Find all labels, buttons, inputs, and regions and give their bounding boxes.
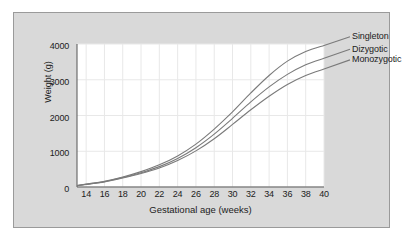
y-axis-ticks: 4000 3000 2000 1000 0 [34, 44, 73, 187]
x-tick-20: 20 [136, 189, 146, 199]
series-label-monozygotic: Monozygotic [352, 54, 401, 64]
x-tick-32: 32 [246, 189, 256, 199]
x-tick-34: 34 [264, 189, 274, 199]
y-axis-title: Weight (g) [43, 42, 53, 122]
x-axis-ticks: 1416182022242628303234363840 [77, 189, 324, 203]
curve-singleton [77, 37, 350, 186]
x-tick-36: 36 [283, 189, 293, 199]
y-tick-0: 0 [64, 178, 69, 196]
x-tick-24: 24 [173, 189, 183, 199]
x-tick-30: 30 [228, 189, 238, 199]
y-tick-1000: 1000 [50, 142, 69, 160]
x-tick-18: 18 [118, 189, 128, 199]
series-label-dizygotic: Dizygotic [352, 44, 388, 54]
x-tick-16: 16 [100, 189, 110, 199]
x-tick-40: 40 [319, 189, 329, 199]
plot-area [77, 44, 324, 187]
curve-monozygotic [77, 60, 350, 186]
x-tick-28: 28 [209, 189, 219, 199]
x-tick-26: 26 [191, 189, 201, 199]
series-label-singleton: Singleton [352, 31, 389, 41]
x-tick-14: 14 [81, 189, 91, 199]
x-tick-22: 22 [155, 189, 165, 199]
x-axis-title: Gestational age (weeks) [77, 204, 324, 215]
curve-dizygotic [77, 49, 350, 185]
x-tick-38: 38 [301, 189, 311, 199]
figure-frame: 4000 3000 2000 1000 0 Weight (g) 1416182… [13, 12, 390, 228]
series-curves [77, 44, 324, 187]
